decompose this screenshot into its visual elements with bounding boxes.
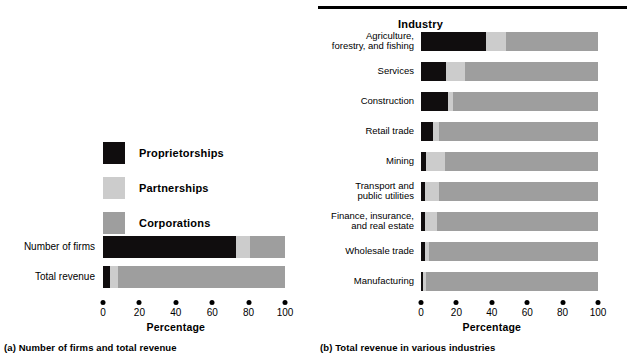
bar-row: Total revenue: [103, 266, 285, 288]
bar-track: [103, 266, 285, 288]
bar-row: Construction: [421, 92, 598, 111]
bar-track: [421, 212, 598, 231]
bar-segment-corporations: [429, 242, 598, 261]
axis-tick-dot: [210, 300, 215, 305]
chart-a-x-axis: 020406080100Percentage: [103, 300, 285, 332]
legend-swatch-icon-corporations: [103, 212, 125, 234]
bar-track: [421, 152, 598, 171]
bar-track: [421, 92, 598, 111]
bar-row-label: Services: [378, 66, 414, 77]
bar-segment-corporations: [426, 272, 598, 291]
bar-track: [421, 62, 598, 81]
axis-title: Percentage: [462, 321, 521, 333]
bar-segment-corporations: [250, 236, 285, 258]
axis-tick-dot: [137, 300, 142, 305]
bar-segment-corporations: [118, 266, 285, 288]
bar-segment-partnerships: [426, 152, 445, 171]
axis-title: Percentage: [146, 321, 205, 333]
bar-segment-corporations: [465, 62, 598, 81]
bar-row-label: Total revenue: [35, 271, 95, 282]
bar-segment-corporations: [439, 182, 598, 201]
bar-segment-proprietorships: [103, 236, 236, 258]
bar-track: [421, 242, 598, 261]
axis-tick-dot: [246, 300, 251, 305]
axis-tick-label: 0: [418, 307, 424, 318]
panel-a-caption: (a) Number of firms and total revenue: [4, 342, 177, 353]
axis-tick-dot: [525, 300, 530, 305]
chart-a-bars: Number of firmsTotal revenue: [103, 236, 285, 288]
legend-swatch-icon-proprietorships: [103, 142, 125, 164]
axis-tick-dot: [454, 300, 459, 305]
axis-tick-label: 100: [277, 307, 294, 318]
legend-swatch-icon-partnerships: [103, 177, 125, 199]
bar-segment-partnerships: [236, 236, 251, 258]
axis-tick-label: 40: [486, 307, 497, 318]
legend: ProprietorshipsPartnershipsCorporations: [103, 140, 224, 245]
legend-item-label: Partnerships: [139, 182, 209, 194]
bar-segment-proprietorships: [421, 92, 448, 111]
bar-row-label: Mining: [386, 156, 414, 167]
axis-tick-dot: [419, 300, 424, 305]
axis-tick-label: 0: [100, 307, 106, 318]
chart-b-x-axis: 020406080100Percentage: [421, 300, 598, 332]
bar-segment-corporations: [506, 32, 598, 51]
bar-row-label: Manufacturing: [354, 276, 414, 287]
axis-tick-label: 100: [590, 307, 607, 318]
axis-tick-label: 20: [134, 307, 145, 318]
bar-segment-corporations: [445, 152, 598, 171]
figure-root: ProprietorshipsPartnershipsCorporations …: [0, 0, 627, 358]
bar-row: Retail trade: [421, 122, 598, 141]
legend-item-label: Corporations: [139, 217, 210, 229]
axis-tick-dot: [489, 300, 494, 305]
bar-segment-corporations: [439, 122, 598, 141]
bar-segment-corporations: [437, 212, 598, 231]
axis-tick-dot: [101, 300, 106, 305]
legend-item-proprietorships: Proprietorships: [103, 140, 224, 165]
legend-item-corporations: Corporations: [103, 210, 224, 235]
bar-track: [421, 272, 598, 291]
bar-segment-partnerships: [486, 32, 505, 51]
axis-tick-dot: [560, 300, 565, 305]
axis-tick-dot: [283, 300, 288, 305]
bar-segment-proprietorships: [421, 122, 433, 141]
bar-row-label: Agriculture,forestry, and fishing: [332, 31, 414, 52]
axis-tick-label: 80: [557, 307, 568, 318]
axis-tick-label: 60: [522, 307, 533, 318]
bar-row-label: Wholesale trade: [345, 246, 414, 257]
bar-track: [421, 32, 598, 51]
axis-tick-label: 60: [207, 307, 218, 318]
bar-segment-partnerships: [425, 182, 438, 201]
bar-row: Mining: [421, 152, 598, 171]
bar-row: Finance, insurance,and real estate: [421, 212, 598, 231]
bar-row: Agriculture,forestry, and fishing: [421, 32, 598, 51]
bar-row-label: Transport andpublic utilities: [355, 181, 414, 202]
legend-item-label: Proprietorships: [139, 147, 224, 159]
bar-row-label: Construction: [361, 96, 414, 107]
bar-segment-proprietorships: [421, 62, 446, 81]
panel-b-axis-title: Industry: [398, 18, 443, 30]
axis-tick-label: 80: [243, 307, 254, 318]
bar-row: Transport andpublic utilities: [421, 182, 598, 201]
bar-row-label: Retail trade: [365, 126, 414, 137]
bar-row: Number of firms: [103, 236, 285, 258]
bar-track: [421, 182, 598, 201]
bar-row: Manufacturing: [421, 272, 598, 291]
legend-item-partnerships: Partnerships: [103, 175, 224, 200]
bar-track: [421, 122, 598, 141]
bar-segment-corporations: [453, 92, 598, 111]
bar-segment-proprietorships: [421, 32, 486, 51]
axis-tick-label: 40: [170, 307, 181, 318]
bar-segment-partnerships: [110, 266, 117, 288]
bar-segment-partnerships: [446, 62, 465, 81]
bar-segment-proprietorships: [103, 266, 110, 288]
axis-tick-dot: [596, 300, 601, 305]
panel-a-number-of-firms-and-total-revenue: ProprietorshipsPartnershipsCorporations …: [0, 0, 318, 358]
axis-tick-label: 20: [451, 307, 462, 318]
bar-row: Wholesale trade: [421, 242, 598, 261]
panel-b-caption: (b) Total revenue in various industries: [320, 342, 495, 353]
bar-row: Services: [421, 62, 598, 81]
chart-b-bars: Agriculture,forestry, and fishingService…: [421, 32, 598, 290]
bar-row-label: Finance, insurance,and real estate: [331, 211, 414, 232]
bar-segment-partnerships: [425, 212, 437, 231]
bar-track: [103, 236, 285, 258]
